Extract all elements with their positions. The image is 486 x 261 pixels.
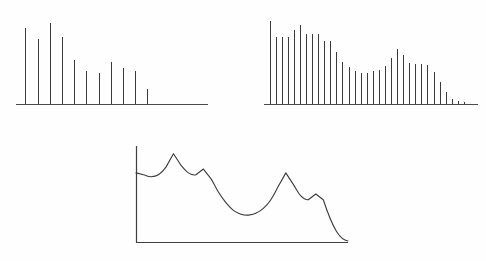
figure-root (0, 0, 486, 261)
chart-sparse-harmonic-spectrum (0, 0, 250, 130)
envelope-curve-path (136, 154, 348, 241)
stem-group-sparse (26, 23, 148, 104)
chart-dense-harmonic-spectrum (250, 0, 486, 130)
chart-spectral-envelope (118, 130, 354, 261)
stem-group-dense (271, 21, 465, 104)
